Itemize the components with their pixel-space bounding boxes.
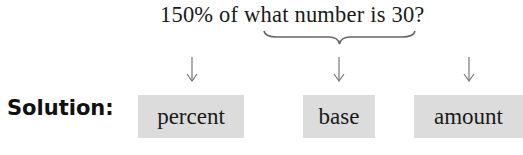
solution-label: Solution: [7,96,114,120]
amount-box: amount [414,95,523,138]
question-percent-text: 150% of [160,2,244,28]
underbrace-icon [263,30,416,50]
base-box: base [303,95,375,138]
percent-box: percent [138,95,244,138]
question-sentence: 150% of what number is 30? [160,2,425,28]
arrow-down-icon [462,56,476,82]
arrow-down-icon [332,56,346,82]
arrow-down-icon [185,56,199,82]
question-unknown-text: what number [244,2,364,28]
question-amount-text: is 30? [364,2,424,28]
